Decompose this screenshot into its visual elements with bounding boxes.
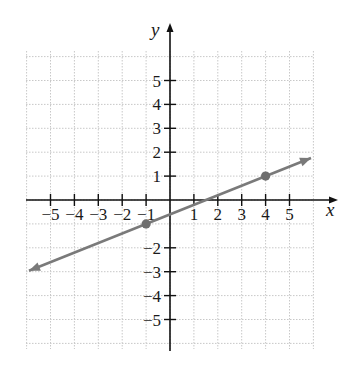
y-axis-arrow-icon: [167, 23, 174, 32]
x-tick-label: 4: [261, 205, 270, 224]
y-tick-label: 3: [153, 119, 162, 138]
x-tick-label: 5: [285, 205, 294, 224]
y-tick-label: 1: [153, 167, 162, 186]
arrowhead-left-icon: [29, 262, 41, 270]
y-tick-label: 4: [153, 95, 162, 114]
y-tick-label: 2: [153, 143, 162, 162]
axes: [26, 23, 338, 351]
x-tick-label: −3: [89, 205, 107, 224]
y-tick-label: −2: [143, 239, 161, 258]
y-tick-label: 5: [153, 72, 162, 91]
x-tick-label: −2: [113, 205, 131, 224]
y-axis-label: y: [149, 19, 160, 40]
data-point: [261, 172, 270, 181]
x-tick-label: 3: [237, 205, 246, 224]
y-tick-label: −5: [143, 311, 161, 330]
y-tick-label: −3: [143, 263, 161, 282]
arrowhead-right-icon: [299, 158, 311, 166]
x-tick-label: −5: [41, 205, 59, 224]
y-tick-label: −4: [143, 287, 162, 306]
data-point: [142, 219, 151, 228]
x-tick-label: 2: [214, 205, 223, 224]
x-axis-label: x: [325, 199, 335, 220]
x-tick-label: −4: [65, 205, 84, 224]
coordinate-plane: −5−4−3−2−11234554321−2−3−4−5 x y: [0, 0, 348, 374]
x-tick-label: 1: [190, 205, 199, 224]
